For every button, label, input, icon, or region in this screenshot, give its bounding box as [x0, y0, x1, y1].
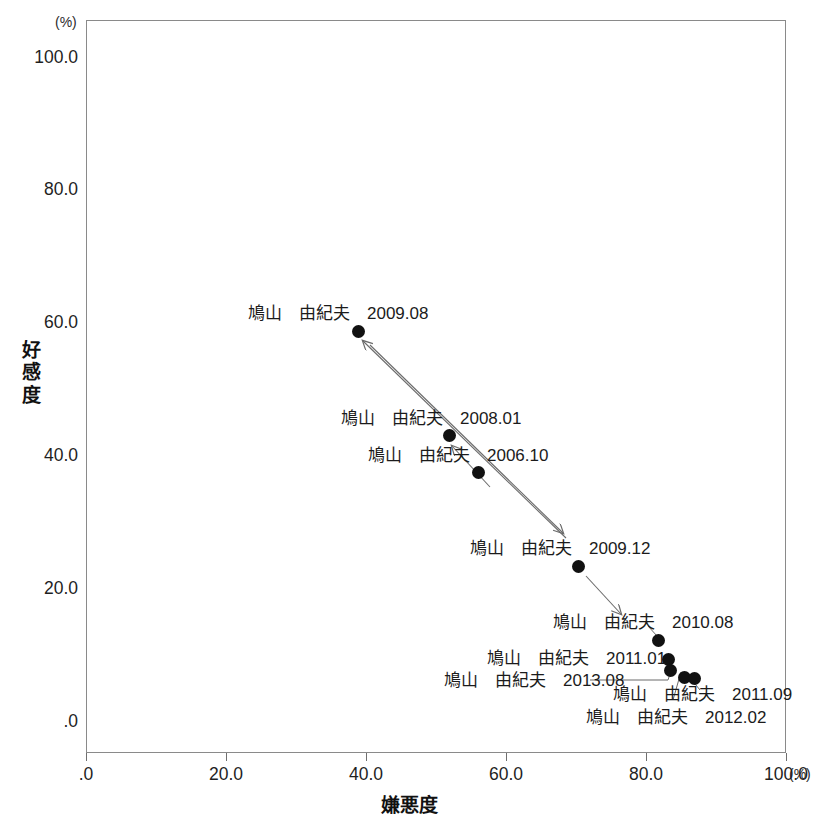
x-tick-label: 80.0 [586, 764, 706, 785]
point-label-2011-09: 鳩山 由紀夫 2011.09 [613, 686, 792, 703]
point-label-2009-08: 鳩山 由紀夫 2009.08 [248, 305, 428, 322]
data-point-2009-08[interactable] [352, 325, 365, 338]
y-tick-label: 60.0 [0, 312, 78, 333]
y-axis-unit: (%) [55, 14, 77, 30]
x-tick-mark [366, 753, 367, 761]
y-axis-title: 好感度 [16, 340, 46, 407]
point-label-2013-08: 鳩山 由紀夫 2013.08 [444, 672, 624, 689]
x-tick-label: 20.0 [166, 764, 286, 785]
point-label-2006-10: 鳩山 由紀夫 2006.10 [368, 447, 548, 464]
x-tick-label: 40.0 [306, 764, 426, 785]
plot-area [86, 20, 786, 753]
point-label-2010-08: 鳩山 由紀夫 2010.08 [553, 614, 733, 631]
data-point-2006-10[interactable] [472, 466, 485, 479]
x-axis-title: 嫌悪度 [0, 790, 818, 817]
y-tick-label: 40.0 [0, 445, 78, 466]
point-label-2008-01: 鳩山 由紀夫 2008.01 [341, 410, 521, 427]
x-tick-label: 100.0 [726, 764, 818, 785]
data-point-2010-08[interactable] [652, 634, 665, 647]
y-tick-label: 20.0 [0, 578, 78, 599]
x-tick-mark [646, 753, 647, 761]
y-tick-label: 100.0 [0, 47, 78, 68]
x-tick-label: .0 [26, 764, 146, 785]
data-point-2009-12[interactable] [572, 560, 585, 573]
x-tick-label: 60.0 [446, 764, 566, 785]
y-tick-label: .0 [0, 711, 78, 732]
x-tick-mark [86, 753, 87, 761]
x-tick-mark [226, 753, 227, 761]
point-label-2012-02: 鳩山 由紀夫 2012.02 [586, 709, 766, 726]
y-tick-label: 80.0 [0, 179, 78, 200]
data-point-2008-01[interactable] [443, 429, 456, 442]
point-label-2009-12: 鳩山 由紀夫 2009.12 [470, 540, 650, 557]
scatter-chart: (%) (%) 100.0 80.0 60.0 40.0 20.0 .0 [0, 0, 818, 825]
data-point-2012-02[interactable] [688, 672, 701, 685]
x-tick-mark [786, 753, 787, 761]
x-tick-mark [506, 753, 507, 761]
point-label-2011-01: 鳩山 由紀夫 2011.01 [487, 650, 666, 667]
